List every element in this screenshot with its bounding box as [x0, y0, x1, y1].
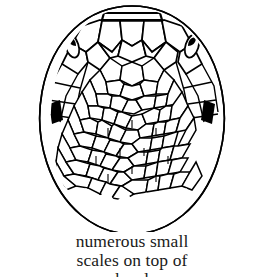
caption-line-1: numerous small — [0, 232, 264, 251]
figure-caption: numerous small scales on top of head — [0, 232, 264, 277]
caption-line-3-clipped: head — [0, 270, 264, 277]
rostral-plate — [102, 13, 162, 20]
snake-head-illustration — [0, 0, 264, 232]
head-diagram-svg — [0, 0, 264, 232]
rostral-plate-group — [102, 13, 162, 20]
figure-panel: numerous small scales on top of head — [0, 0, 264, 278]
caption-line-2: scales on top of — [0, 251, 264, 270]
